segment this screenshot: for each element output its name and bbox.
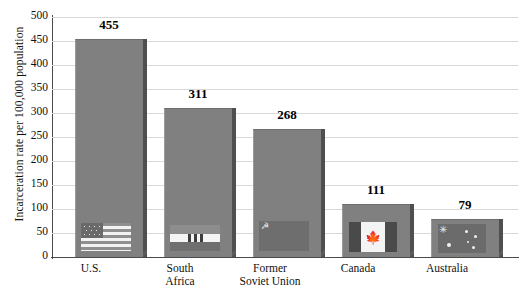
- x-label-us-line1: U.S.: [57, 262, 125, 275]
- y-tick-400: 400: [2, 57, 48, 69]
- cut-off-title: ................: [150, 0, 390, 3]
- bar-value-former-soviet-union: 268: [253, 107, 321, 123]
- x-label-us: U.S.: [57, 262, 125, 275]
- y-tick-450: 450: [2, 33, 48, 45]
- maple-leaf-icon: 🍁: [349, 222, 397, 252]
- bar-value-australia: 79: [431, 197, 499, 213]
- x-label-former-soviet-union: Former Soviet Union: [225, 262, 315, 287]
- y-tick-300: 300: [2, 105, 48, 117]
- plot-area: 455: [52, 17, 518, 257]
- x-label-former-soviet-union-line2: Soviet Union: [225, 275, 315, 288]
- bar-value-canada: 111: [342, 182, 410, 198]
- x-label-former-soviet-union-line1: Former: [225, 262, 315, 275]
- bar-former-soviet-union[interactable]: ☭: [253, 129, 321, 257]
- y-tick-100: 100: [2, 201, 48, 213]
- x-label-canada-line1: Canada: [324, 262, 392, 275]
- y-tick-250: 250: [2, 129, 48, 141]
- x-label-south-africa-line2: Africa: [146, 275, 214, 288]
- x-label-australia: Australia: [411, 262, 483, 275]
- y-tick-50: 50: [2, 225, 48, 237]
- bar-canada[interactable]: 🍁: [342, 204, 410, 257]
- soviet-union-flag: ☭: [259, 221, 309, 251]
- bar-value-us: 455: [75, 17, 143, 33]
- y-tick-500: 500: [2, 9, 48, 21]
- bar-south-africa[interactable]: [164, 108, 232, 257]
- us-flag: [81, 223, 131, 251]
- bar-value-south-africa: 311: [164, 86, 232, 102]
- australia-flag: ✳: [438, 224, 486, 253]
- y-tick-200: 200: [2, 153, 48, 165]
- y-tick-350: 350: [2, 81, 48, 93]
- bar-chart: ................ Incarceration rate per …: [0, 0, 528, 300]
- x-label-australia-line1: Australia: [411, 262, 483, 275]
- hammer-sickle-icon: ☭: [261, 222, 269, 231]
- bar-us[interactable]: [75, 39, 143, 257]
- union-jack-icon: ✳: [439, 225, 447, 235]
- x-label-canada: Canada: [324, 262, 392, 275]
- y-tick-0: 0: [2, 249, 48, 261]
- south-africa-flag: [170, 225, 220, 251]
- y-axis-tick-labels: 500 450 400 350 300 250 200 150 100 50 0: [0, 0, 48, 300]
- x-axis-line: [51, 257, 519, 258]
- y-tick-150: 150: [2, 177, 48, 189]
- us-flag-canton: [81, 223, 103, 238]
- canada-flag: 🍁: [349, 222, 397, 252]
- x-label-south-africa-line1: South: [146, 262, 214, 275]
- x-label-south-africa: South Africa: [146, 262, 214, 287]
- bar-australia[interactable]: ✳: [431, 219, 499, 257]
